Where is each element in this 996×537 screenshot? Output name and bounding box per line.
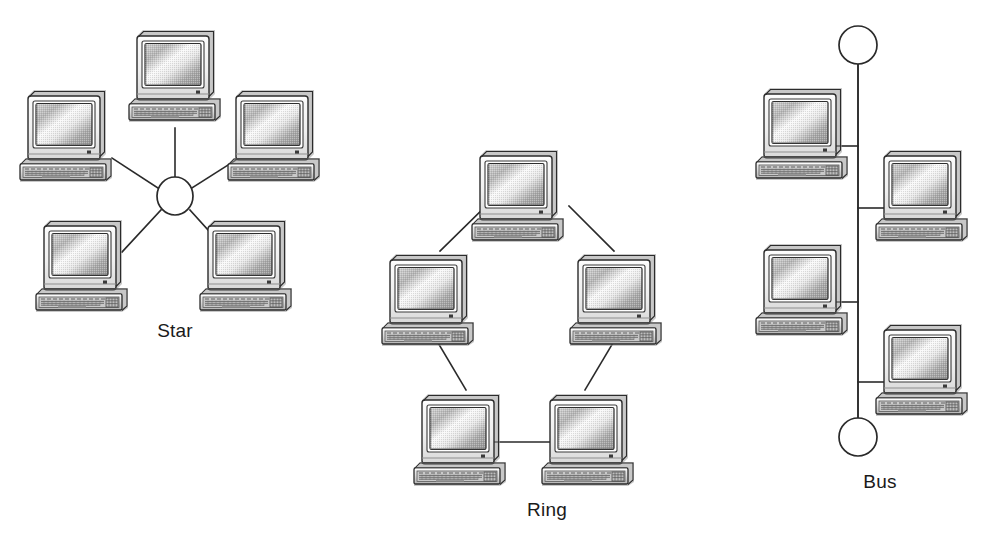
topology-diagram-canvas: Star [0,0,996,537]
bus-computer-2[interactable] [876,150,968,242]
bus-terminator-bottom[interactable] [839,418,877,456]
star-computer-upper-left[interactable] [20,90,112,182]
ring-computer-left[interactable] [382,254,474,346]
network-topology-figure: Star [0,0,996,537]
ring-label: Ring [527,499,567,520]
ring-computer-top[interactable] [472,150,564,242]
ring-topology-group: Ring [382,150,662,520]
bus-computer-4[interactable] [876,324,968,416]
bus-computer-1[interactable] [756,88,848,180]
star-computer-top[interactable] [129,30,221,122]
star-computer-upper-right[interactable] [228,90,320,182]
bus-computer-3[interactable] [756,244,848,336]
star-hub-node[interactable] [157,177,193,215]
star-computer-lower-left[interactable] [36,220,128,312]
star-link-upper-left [112,158,158,188]
star-topology-group: Star [20,30,320,341]
ring-computer-bottom-right[interactable] [542,394,634,486]
star-computer-lower-right[interactable] [200,220,292,312]
bus-terminator-top[interactable] [839,26,877,64]
bus-label: Bus [863,471,896,492]
star-link-lower-left [122,210,161,252]
ring-link-top-right [569,206,614,251]
bus-topology-group: Bus [756,26,968,492]
ring-computer-right[interactable] [570,254,662,346]
star-label: Star [157,320,193,341]
ring-computer-bottom-left[interactable] [414,394,506,486]
